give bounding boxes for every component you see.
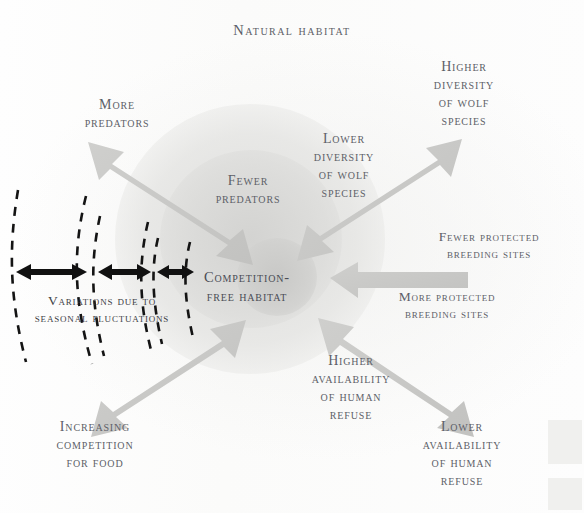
label-lower-diversity: Lower diversity of wolf species [288,130,400,202]
label-variations-seasonal-fluctuations: Variations due to seasonal fluctuations [2,292,202,327]
label-fewer-breeding-sites: Fewer protected breeding sites [396,228,582,263]
fluctuation-arc-2a [93,216,104,356]
label-more-breeding-sites: More protected breeding sites [352,288,542,323]
gap-arrow-1 [16,264,87,280]
diagram-canvas: Natural habitat More predators Higher di… [0,0,584,513]
scan-artifact-lower [548,478,582,510]
label-increasing-competition: Increasing competition for food [22,418,168,472]
scan-artifact-upper [548,420,582,464]
label-more-predators: More predators [52,96,182,132]
fluctuation-arc-1b [77,196,92,364]
fluctuation-arc-3a [153,238,162,344]
label-lower-availability: Lower availability of human refuse [398,418,526,490]
label-higher-diversity: Higher diversity of wolf species [398,58,530,130]
gap-arrow-2 [98,264,151,280]
page-title: Natural habitat [0,22,584,39]
label-higher-availability: Higher availability of human refuse [288,352,414,424]
fluctuation-gap-arrows [16,264,194,280]
fluctuation-arc-2b [141,222,152,354]
